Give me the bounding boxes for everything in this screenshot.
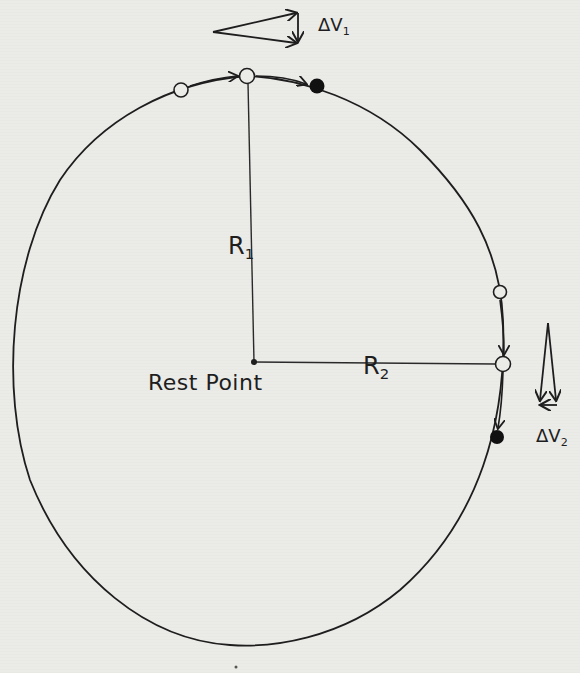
point-open-top-left <box>174 83 188 97</box>
rest-point-dot <box>251 359 257 365</box>
point-open-right-upper <box>494 286 507 299</box>
orbit-path <box>13 76 503 646</box>
label-delta-v1: ΔV1 <box>318 14 350 38</box>
delta-v1-vector-diagram <box>213 13 298 43</box>
orbit-diagram <box>0 0 580 673</box>
radius-r1-line <box>248 83 254 362</box>
point-filled-top <box>310 79 325 94</box>
point-open-right-center <box>496 357 511 372</box>
label-rest-point: Rest Point <box>148 370 263 395</box>
point-filled-right <box>490 430 504 444</box>
label-delta-v2: ΔV2 <box>536 425 568 449</box>
point-open-top-center <box>240 69 255 84</box>
label-r1: R1 <box>228 232 254 263</box>
label-r2: R2 <box>363 352 389 383</box>
paper-speck <box>235 666 238 669</box>
delta-v2-vector-diagram <box>540 323 557 405</box>
